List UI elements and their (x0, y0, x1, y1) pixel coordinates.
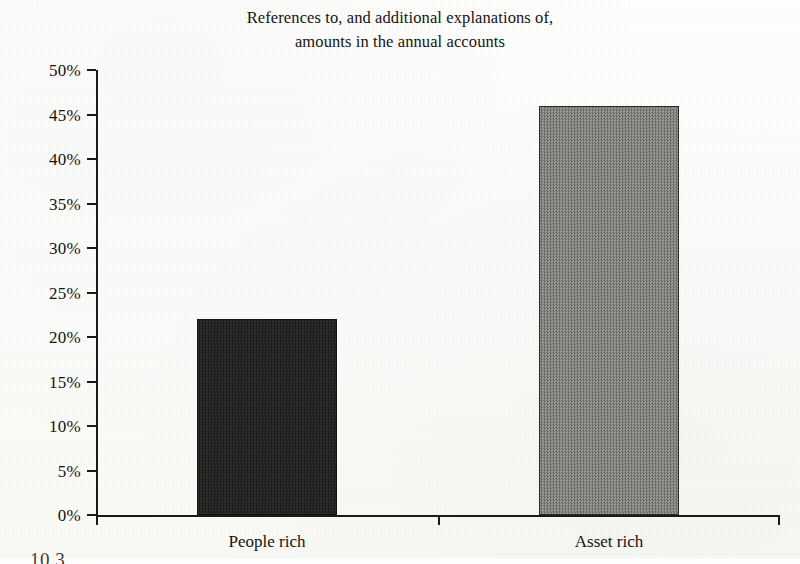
y-axis-tick-mark (87, 470, 96, 472)
y-axis-tick-label: 45% (49, 106, 81, 123)
x-axis-tick-mark (438, 515, 440, 525)
y-axis-tick-label: 30% (49, 240, 81, 257)
y-axis-tick-mark (87, 114, 96, 116)
y-axis-tick-mark (87, 247, 96, 249)
y-axis-tick-label: 50% (49, 62, 81, 79)
y-axis-tick-mark (87, 203, 96, 205)
x-axis-tick-mark (96, 515, 98, 525)
y-axis-tick-label: 5% (58, 462, 81, 479)
chart-title-line-1: References to, and additional explanatio… (0, 6, 800, 30)
chart-title-line-2: amounts in the annual accounts (0, 30, 800, 54)
chart-title: References to, and additional explanatio… (0, 6, 800, 54)
x-axis-tick-mark (778, 515, 780, 525)
y-axis-tick-label: 10% (49, 418, 81, 435)
plot-area: 50%45%40%35%30%25%20%15%10%5%0% People r… (96, 70, 780, 515)
bar-asset-rich (539, 106, 679, 515)
x-axis-category-label: Asset rich (575, 532, 643, 552)
figure-caption-partial: 10.3 (30, 550, 65, 564)
y-axis-tick-mark (87, 158, 96, 160)
y-axis-tick-mark (87, 336, 96, 338)
y-axis-tick-mark (87, 381, 96, 383)
y-axis-tick-mark (87, 514, 96, 516)
y-axis-tick-label: 35% (49, 195, 81, 212)
y-axis-tick-mark (87, 69, 96, 71)
y-axis-tick-label: 40% (49, 151, 81, 168)
y-axis-tick-label: 20% (49, 329, 81, 346)
y-axis-tick-label: 15% (49, 373, 81, 390)
y-axis-line (96, 70, 98, 515)
y-axis-tick-label: 25% (49, 284, 81, 301)
y-axis-tick-label: 0% (58, 507, 81, 524)
y-axis-tick-mark (87, 425, 96, 427)
bar-people-rich (197, 319, 337, 515)
x-axis-category-label: People rich (229, 532, 306, 552)
y-axis-tick-mark (87, 292, 96, 294)
